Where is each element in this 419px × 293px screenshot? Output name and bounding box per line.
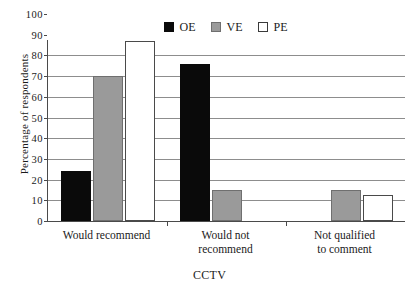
legend-label-pe: PE [273, 20, 287, 35]
y-axis-tick-mark [44, 138, 48, 139]
y-axis-tick-mark [44, 97, 48, 98]
y-axis-tick-mark [44, 180, 48, 181]
plot-area: 0102030405060708090100 [47, 14, 405, 222]
chart-legend: OE VE PE [47, 14, 405, 40]
y-axis-title: Percentage of respondents [18, 14, 30, 214]
y-axis-tick-label: 0 [37, 216, 43, 227]
y-axis-tick-label: 100 [26, 9, 43, 20]
legend-label-ve: VE [226, 20, 242, 35]
y-axis-tick-mark [44, 221, 48, 222]
legend-item-pe: PE [258, 20, 287, 35]
legend-label-oe: OE [179, 20, 195, 35]
y-axis-tick-label: 10 [32, 195, 44, 206]
category-label-line1: Not qualified [285, 228, 404, 242]
y-axis-tick-label: 80 [32, 50, 44, 61]
gridline [48, 55, 405, 56]
y-axis-tick-mark [44, 200, 48, 201]
y-axis-tick-label: 70 [32, 71, 44, 82]
bar-chart: Percentage of respondents 01020304050607… [0, 0, 419, 293]
plot-inner: 0102030405060708090100 [48, 14, 405, 221]
y-axis-tick-mark [44, 55, 48, 56]
bar-oe-group2 [180, 64, 210, 221]
bar-ve-group2 [212, 190, 242, 221]
white-square-icon [258, 22, 268, 32]
category-label-line2: recommend [166, 242, 285, 256]
y-axis-tick-label: 40 [32, 133, 44, 144]
bar-pe-group3 [363, 195, 393, 221]
black-square-icon [164, 22, 174, 32]
y-axis-tick-label: 60 [32, 91, 44, 102]
x-axis-category-label: Would recommend [47, 228, 166, 242]
x-axis-category-label: Not qualifiedto comment [285, 228, 404, 256]
x-axis-separator [167, 221, 168, 226]
y-axis-tick-label: 50 [32, 112, 44, 123]
y-axis-tick-label: 30 [32, 153, 44, 164]
y-axis-tick-label: 90 [32, 29, 44, 40]
x-axis-separator [286, 221, 287, 226]
x-axis-title: CCTV [0, 268, 419, 283]
bar-ve-group1 [93, 76, 123, 221]
category-label-line2: to comment [285, 242, 404, 256]
y-axis-tick-mark [44, 159, 48, 160]
y-axis-tick-mark [44, 118, 48, 119]
category-label-line1: Would not [166, 228, 285, 242]
bar-pe-group1 [125, 41, 155, 221]
bar-ve-group3 [331, 190, 361, 221]
legend-item-ve: VE [211, 20, 242, 35]
y-axis-tick-label: 20 [32, 174, 44, 185]
y-axis-tick-mark [44, 76, 48, 77]
gray-square-icon [211, 22, 221, 32]
category-label-line1: Would recommend [47, 228, 166, 242]
x-axis-category-label: Would notrecommend [166, 228, 285, 256]
legend-item-oe: OE [164, 20, 195, 35]
bar-oe-group1 [61, 171, 91, 221]
